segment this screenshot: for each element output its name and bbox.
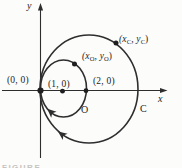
small-point-mid: , y bbox=[94, 51, 104, 61]
large-circle-label: C bbox=[140, 104, 147, 114]
point-2-0-dot bbox=[84, 88, 89, 93]
small-circle-point-label: (xO, yO) bbox=[82, 51, 112, 62]
center-1-0-label: (1, 0) bbox=[48, 79, 70, 89]
y-axis-label: y bbox=[27, 1, 32, 11]
large-point-open: (x bbox=[119, 34, 127, 44]
origin-dot bbox=[37, 87, 43, 93]
point-2-0-label: (2, 0) bbox=[93, 76, 115, 86]
large-point-sub-2: C bbox=[141, 38, 145, 45]
small-circle-point-dot bbox=[72, 62, 77, 67]
figure-canvas: y x (0, 0) (1, 0) (2, 0) (xO, yO) (xC, y… bbox=[0, 0, 182, 168]
center-1-0-dot bbox=[60, 89, 65, 94]
small-circle-label: O bbox=[81, 105, 88, 115]
large-circle-point-label: (xC, yC) bbox=[119, 34, 148, 45]
large-point-close: ) bbox=[145, 34, 148, 44]
figure-caption: FIGURE bbox=[2, 163, 41, 168]
large-point-sub-1: C bbox=[127, 38, 131, 45]
origin-label: (0, 0) bbox=[7, 75, 29, 85]
large-point-mid: , y bbox=[131, 34, 141, 44]
x-axis-label: x bbox=[158, 94, 163, 104]
large-circle-point-dot bbox=[114, 41, 119, 46]
small-point-sub-1: O bbox=[90, 55, 95, 62]
small-point-sub-2: O bbox=[104, 55, 109, 62]
small-point-close: ) bbox=[109, 51, 112, 61]
y-axis-arrowhead-icon bbox=[38, 3, 43, 11]
small-point-open: (x bbox=[82, 51, 90, 61]
